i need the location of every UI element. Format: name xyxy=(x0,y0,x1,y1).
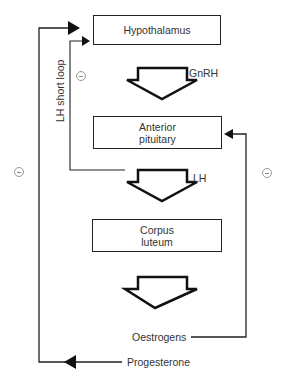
gnrh-arrow-icon xyxy=(127,68,197,99)
output-arrow-icon xyxy=(125,277,197,308)
node-corpus-luteum-label: Corpus luteum xyxy=(140,224,174,248)
oestrogens-inhibition-icon xyxy=(262,168,272,178)
lh-short-loop-label: LH short loop xyxy=(54,60,66,122)
oestrogens-label: Oestrogens xyxy=(132,331,186,343)
node-anterior-pituitary: Anterior pituitary xyxy=(93,116,222,149)
node-anterior-pituitary-label: Anterior pituitary xyxy=(139,121,176,145)
lh-arrow-icon xyxy=(127,170,197,201)
node-corpus-luteum: Corpus luteum xyxy=(92,219,222,252)
short-loop-inhibition-icon xyxy=(76,71,86,81)
gnrh-label: GnRH xyxy=(189,67,218,79)
node-hypothalamus: Hypothalamus xyxy=(93,15,221,45)
node-hypothalamus-label: Hypothalamus xyxy=(123,24,190,36)
lh-short-loop-line xyxy=(70,36,125,170)
lh-label: LH xyxy=(193,172,206,184)
progesterone-inhibition-icon xyxy=(14,167,24,177)
progesterone-label: Progesterone xyxy=(127,356,190,368)
diagram-connectors xyxy=(0,0,290,384)
